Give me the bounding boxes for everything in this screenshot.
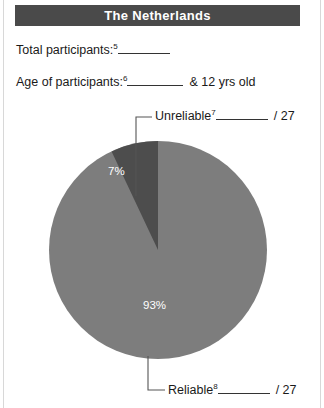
pie-data-label-reliable: 93% — [143, 300, 166, 312]
pie-data-label-unreliable: 7% — [108, 166, 125, 178]
callout-denominator: / 27 — [270, 383, 297, 397]
pie-chart: 7% 93% — [0, 0, 324, 408]
answer-blank-unreliable[interactable] — [216, 119, 268, 120]
answer-blank-reliable[interactable] — [218, 393, 270, 394]
callout-denominator: / 27 — [268, 109, 295, 123]
leader-line-reliable — [148, 356, 165, 390]
footnote-marker: 7 — [211, 108, 215, 117]
pie-chart-svg — [0, 0, 324, 408]
callout-unreliable: Unreliable7/ 27 — [155, 110, 295, 123]
callout-label: Unreliable — [155, 109, 211, 123]
footnote-marker: 8 — [213, 382, 217, 391]
callout-reliable: Reliable8/ 27 — [168, 384, 296, 397]
callout-label: Reliable — [168, 383, 213, 397]
